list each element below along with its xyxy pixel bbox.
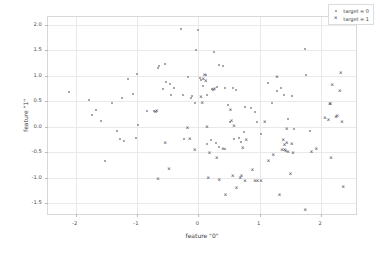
- data-point-series-0: [283, 94, 285, 96]
- data-point-series-1: [255, 179, 259, 183]
- data-point-series-0: [91, 114, 93, 116]
- legend: target = 0×target = 1: [328, 4, 374, 25]
- data-point-series-0: [183, 138, 185, 140]
- gridline-horizontal: [48, 152, 356, 153]
- data-point-series-0: [206, 143, 208, 145]
- data-point-series-1: [230, 119, 234, 123]
- data-point-series-1: [212, 87, 216, 91]
- x-tick-label: 1: [257, 220, 260, 226]
- data-point-series-1: [215, 156, 219, 160]
- data-point-series-0: [164, 63, 166, 65]
- data-point-series-0: [210, 139, 212, 141]
- y-tick-mark: [45, 152, 48, 153]
- data-point-series-1: [280, 148, 284, 152]
- data-point-series-1: [335, 114, 339, 118]
- data-point-series-1: [253, 179, 257, 183]
- x-axis-label: feature "0": [47, 232, 357, 239]
- y-tick-label: -1.5: [31, 199, 42, 205]
- data-point-series-0: [116, 130, 118, 132]
- y-tick-mark: [45, 50, 48, 51]
- legend-marker-glyph: [335, 10, 337, 12]
- data-point-series-1: [282, 143, 286, 147]
- data-point-series-0: [267, 82, 269, 84]
- data-point-series-1: [243, 179, 247, 183]
- data-point-series-0: [256, 121, 258, 123]
- data-point-series-0: [287, 118, 289, 120]
- y-tick-mark: [45, 203, 48, 204]
- data-point-series-0: [180, 28, 182, 30]
- x-tick-mark: [198, 214, 199, 217]
- data-point-series-0: [224, 148, 226, 150]
- data-point-series-0: [291, 95, 293, 97]
- data-point-series-0: [123, 140, 125, 142]
- data-point-series-1: [266, 159, 270, 163]
- y-tick-mark: [45, 76, 48, 77]
- y-tick-mark: [45, 101, 48, 102]
- data-point-series-0: [100, 120, 102, 122]
- data-point-series-1: [201, 77, 205, 81]
- gridline-horizontal: [48, 127, 356, 128]
- legend-dot-marker-icon: [332, 10, 339, 12]
- y-axis-label-text: feature "1": [22, 99, 29, 132]
- data-point-series-1: [334, 115, 338, 119]
- gridline-vertical: [137, 17, 138, 214]
- data-point-series-0: [68, 91, 70, 93]
- x-tick-mark: [321, 214, 322, 217]
- data-point-series-0: [240, 141, 242, 143]
- gridline-vertical: [321, 17, 322, 214]
- data-point-series-0: [250, 107, 252, 109]
- gridline-horizontal: [48, 76, 356, 77]
- data-point-series-1: [167, 167, 171, 171]
- data-point-series-1: [188, 137, 192, 141]
- x-tick-label: -2: [72, 220, 77, 226]
- data-point-series-0: [157, 67, 159, 69]
- data-point-series-0: [165, 81, 167, 83]
- x-tick-mark: [260, 214, 261, 217]
- data-point-series-0: [182, 94, 184, 96]
- gridline-vertical: [260, 17, 261, 214]
- x-tick-label: 2: [318, 220, 321, 226]
- data-point-series-1: [155, 109, 159, 113]
- gridline-horizontal: [48, 50, 356, 51]
- data-point-series-1: [339, 71, 343, 75]
- y-tick-label: -1.0: [31, 174, 42, 180]
- gridline-vertical: [76, 17, 77, 214]
- data-point-series-0: [153, 110, 155, 112]
- data-point-series-1: [221, 147, 225, 151]
- scatter-plot-figure: feature "1" -1.5-1.0-0.50.00.51.01.52.0-…: [0, 0, 380, 259]
- data-point-series-1: [338, 89, 342, 93]
- data-point-series-0: [222, 65, 224, 67]
- gridline-horizontal: [48, 203, 356, 204]
- data-point-series-0: [216, 86, 218, 88]
- legend-item[interactable]: target = 0: [332, 7, 369, 14]
- data-point-series-1: [330, 83, 334, 87]
- data-point-series-0: [243, 131, 245, 133]
- gridline-horizontal: [48, 101, 356, 102]
- data-point-series-0: [276, 90, 278, 92]
- data-point-series-0: [218, 146, 220, 148]
- y-tick-label: 2.0: [33, 21, 42, 27]
- legend-item[interactable]: ×target = 1: [332, 15, 369, 22]
- data-point-series-1: [327, 118, 331, 122]
- data-point-series-0: [224, 87, 226, 89]
- data-point-series-1: [241, 146, 245, 150]
- y-tick-mark: [45, 178, 48, 179]
- data-point-series-0: [162, 88, 164, 90]
- gridline-horizontal: [48, 178, 356, 179]
- data-point-series-0: [235, 89, 237, 91]
- data-point-series-1: [288, 172, 292, 176]
- data-point-series-0: [233, 138, 235, 140]
- data-point-series-0: [127, 78, 129, 80]
- data-point-series-0: [232, 87, 234, 89]
- legend-label: target = 1: [343, 16, 369, 22]
- data-point-series-0: [218, 64, 220, 66]
- data-point-series-0: [280, 87, 282, 89]
- data-point-series-0: [104, 160, 106, 162]
- y-tick-label: 1.5: [33, 46, 42, 52]
- data-point-series-0: [309, 130, 311, 132]
- data-point-series-0: [190, 97, 192, 99]
- data-point-series-0: [229, 121, 231, 123]
- data-point-series-0: [191, 95, 193, 97]
- data-point-series-0: [211, 88, 213, 90]
- gridline-horizontal: [48, 25, 356, 26]
